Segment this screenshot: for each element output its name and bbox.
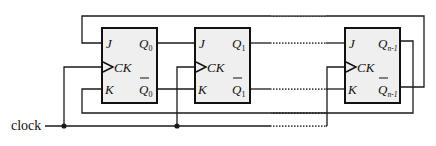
clock-junction-dot-1 xyxy=(174,123,179,128)
clock-label: clock xyxy=(11,118,41,133)
flipflop-n-1: J CK K Qn-1 Qn-1 xyxy=(345,28,400,103)
wire-clock-to-ck0 xyxy=(64,67,102,126)
dotted-continuations xyxy=(271,15,326,126)
ff1-ck-label: CK xyxy=(207,60,226,75)
ff0-k-label: K xyxy=(104,82,115,97)
ff1-k-label: K xyxy=(197,82,208,97)
clock-junction-dot-0 xyxy=(61,123,66,128)
flipflop-0: J CK K Q0 Q0 xyxy=(102,28,157,103)
ffn1-ck-label: CK xyxy=(357,60,376,75)
flipflop-1: J CK K Q1 Q1 xyxy=(195,28,250,103)
ffn1-k-label: K xyxy=(347,82,358,97)
jk-counter-circuit-diagram: clock J CK K Q0 Q0 J CK K Q1 Q1 J CK K Q… xyxy=(0,0,436,146)
wire-clock-to-ckn1 xyxy=(327,67,345,126)
ff0-ck-label: CK xyxy=(114,60,133,75)
wire-clock-to-ck1 xyxy=(177,67,195,126)
